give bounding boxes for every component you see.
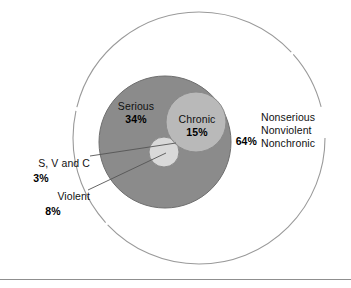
outer-line-3: Nonchronic bbox=[261, 137, 315, 150]
bottom-divider bbox=[0, 279, 351, 280]
label-svc: S, V and C 3% bbox=[14, 152, 90, 184]
label-violent: Violent 8% bbox=[28, 185, 90, 217]
chronic-name: Chronic bbox=[171, 113, 223, 126]
serious-name: Serious bbox=[108, 100, 164, 113]
serious-percent: 34% bbox=[108, 113, 164, 126]
label-chronic: Chronic 15% bbox=[171, 113, 223, 139]
outer-percent: 64% bbox=[236, 135, 257, 147]
svc-name: S, V and C bbox=[38, 157, 90, 169]
chronic-percent: 15% bbox=[171, 126, 223, 139]
outer-line-2: Nonviolent bbox=[261, 124, 315, 137]
svc-percent: 3% bbox=[14, 172, 90, 185]
label-outer-description: Nonserious Nonviolent Nonchronic bbox=[261, 111, 315, 149]
label-outer-percent: 64% bbox=[231, 130, 257, 150]
label-serious: Serious 34% bbox=[108, 100, 164, 126]
violent-name: Violent bbox=[57, 190, 90, 202]
outer-line-1: Nonserious bbox=[261, 111, 315, 124]
violent-percent: 8% bbox=[28, 205, 90, 218]
